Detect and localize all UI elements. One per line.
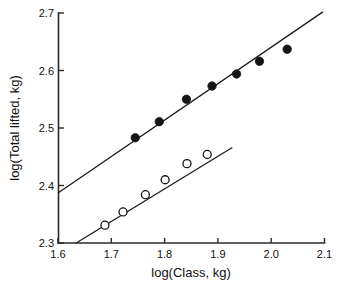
data-point-filled-circles [283,45,291,53]
x-tick-label: 1.7 [104,248,119,260]
x-tick-label: 2.0 [264,248,279,260]
x-tick-label: 1.6 [50,248,65,260]
data-point-open-circles [203,150,211,158]
data-point-open-circles [141,191,149,199]
y-tick-label: 2.4 [39,180,54,192]
y-tick-label: 2.6 [39,65,54,77]
y-tick-label: 2.3 [39,237,54,249]
data-point-filled-circles [232,70,240,78]
x-tick-label: 1.9 [210,248,225,260]
y-tick-label: 2.5 [39,122,54,134]
y-tick-label: 2.7 [39,7,54,19]
data-point-filled-circles [255,57,263,65]
data-point-filled-circles [208,82,216,90]
data-point-filled-circles [131,134,139,142]
data-point-filled-circles [182,95,190,103]
x-tick-label: 2.1 [317,248,332,260]
data-point-open-circles [183,160,191,168]
fit-lines-group [58,12,323,243]
regression-line-open-circles [76,148,232,243]
data-point-open-circles [161,176,169,184]
plot-canvas: 1.61.71.81.92.02.12.32.42.52.62.7 log(Cl… [0,0,345,289]
data-point-filled-circles [155,117,163,125]
x-tick-label: 1.8 [157,248,172,260]
scatter-plot-figure: 1.61.71.81.92.02.12.32.42.52.62.7 log(Cl… [0,0,345,289]
data-point-open-circles [119,208,127,216]
data-point-open-circles [101,221,109,229]
y-axis-title: log(Total lifted, kg) [7,75,22,181]
x-axis-title: log(Class, kg) [151,265,230,280]
data-points-group [101,45,291,229]
